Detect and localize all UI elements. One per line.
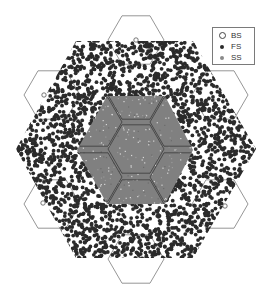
legend: BS FS SS (212, 27, 255, 65)
legend-label: SS (231, 52, 242, 63)
filled-dark-dot-icon (220, 45, 224, 49)
bs-marker (42, 93, 46, 97)
bs-marker (41, 201, 45, 205)
legend-item-bs: BS (213, 30, 254, 41)
legend-label: FS (231, 41, 241, 52)
filled-gray-dot-icon (220, 56, 224, 60)
legend-item-fs: FS (213, 41, 254, 52)
bs-marker (223, 204, 227, 208)
cell-outline (108, 235, 164, 283)
bs-marker (134, 38, 138, 42)
open-circle-icon (219, 32, 226, 39)
legend-item-ss: SS (213, 52, 254, 63)
legend-label: BS (231, 30, 242, 41)
